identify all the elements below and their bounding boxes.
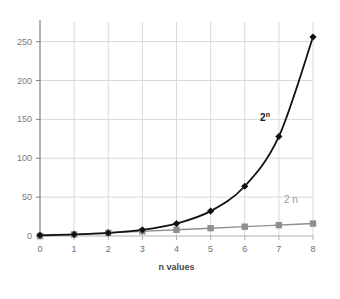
x-axis-tick-label: 6 bbox=[242, 244, 247, 254]
y-axis-tick-label: 200 bbox=[17, 76, 32, 86]
data-point-marker-2n bbox=[173, 227, 179, 233]
data-point-marker-2n bbox=[310, 220, 316, 226]
x-axis-tick-label: 7 bbox=[276, 244, 281, 254]
series-label-2n: 2 n bbox=[284, 194, 298, 205]
y-axis-tick-label: 50 bbox=[22, 192, 32, 202]
y-axis-tick-label: 250 bbox=[17, 37, 32, 47]
x-axis-tick-label: 0 bbox=[37, 244, 42, 254]
y-axis-tick-label: 150 bbox=[17, 114, 32, 124]
exponential-growth-line-chart: 050100150200250 012345678 2n 2 n n value… bbox=[0, 0, 340, 299]
data-point-marker-2n bbox=[242, 223, 248, 229]
x-axis-tick-label: 4 bbox=[174, 244, 179, 254]
x-axis-tick-label: 1 bbox=[72, 244, 77, 254]
chart-background bbox=[0, 0, 340, 299]
y-axis-tick-label: 0 bbox=[27, 231, 32, 241]
y-axis-tick-label: 100 bbox=[17, 153, 32, 163]
data-point-marker-2n bbox=[207, 225, 213, 231]
x-axis-tick-label: 5 bbox=[208, 244, 213, 254]
x-axis-tick-label: 2 bbox=[106, 244, 111, 254]
x-axis-label: n values bbox=[158, 262, 194, 272]
chart-container: 050100150200250 012345678 2n 2 n n value… bbox=[0, 0, 340, 299]
x-axis-tick-label: 3 bbox=[140, 244, 145, 254]
x-axis-tick-label: 8 bbox=[310, 244, 315, 254]
data-point-marker-2n bbox=[276, 222, 282, 228]
